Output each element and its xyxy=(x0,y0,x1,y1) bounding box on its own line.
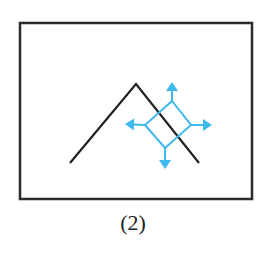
arrow-left-icon xyxy=(125,118,134,130)
arrow-right-icon xyxy=(203,119,212,131)
arrow-left-shaft xyxy=(134,124,145,125)
figure-caption: (2) xyxy=(0,210,266,236)
arrow-down-icon xyxy=(159,160,171,169)
frame-border xyxy=(20,23,252,199)
arrow-up-icon xyxy=(166,82,178,91)
